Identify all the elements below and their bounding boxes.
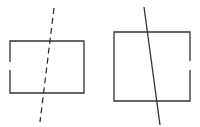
left-figure: [10, 8, 84, 122]
right-solid-line: [144, 7, 160, 125]
diagram-canvas: [0, 0, 200, 127]
left-rectangle-with-gap: [10, 41, 84, 93]
right-figure: [114, 7, 190, 125]
left-dashed-line: [40, 8, 54, 122]
